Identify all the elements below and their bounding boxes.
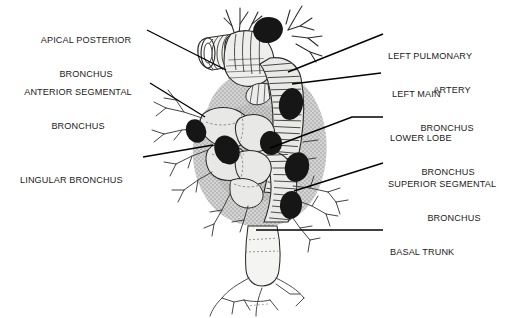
label-line-1: ANTERIOR SEGMENTAL [8,87,148,98]
diagram-page: APICAL POSTERIOR BRONCHUS ANTERIOR SEGME… [0,0,522,318]
label-line-2: BRONCHUS [388,213,520,224]
leader-anterior-segmental [150,83,205,117]
label-basal-trunk: BASAL TRUNK [390,224,506,281]
label-line-1: LEFT MAIN [392,89,502,100]
leader-left-main-bronchus [292,73,381,84]
leader-left-pulmonary-artery [288,34,383,72]
label-line-1: LEFT PULMONARY [388,51,516,62]
label-line-1: SUPERIOR SEGMENTAL [388,179,520,190]
label-anterior-segmental-bronchus: ANTERIOR SEGMENTAL BRONCHUS [8,64,148,155]
label-line-1: BASAL TRUNK [390,247,506,258]
basal-trunk [210,226,304,316]
label-line-1: APICAL POSTERIOR [24,35,148,46]
label-line-2: BRONCHUS [8,121,148,132]
label-lingular-bronchus: LINGULAR BRONCHUS [20,152,144,209]
label-line-1: LINGULAR BRONCHUS [20,175,144,186]
label-line-1: LOWER LOBE [390,133,506,144]
